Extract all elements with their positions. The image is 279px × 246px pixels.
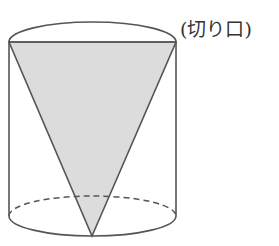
cross-section-triangle (9, 42, 176, 236)
cross-section-label: (切り口) (180, 14, 252, 41)
top-ellipse-back-arc (9, 22, 176, 42)
